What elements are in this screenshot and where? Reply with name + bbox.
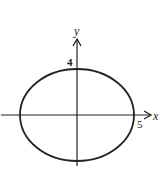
x-axis-label: x bbox=[152, 109, 159, 123]
x-intercept-label: 5 bbox=[137, 118, 143, 130]
y-intercept-label: 4 bbox=[67, 56, 73, 68]
y-axis-label: y bbox=[73, 24, 80, 38]
ellipse-diagram: y x 4 5 bbox=[0, 0, 166, 169]
